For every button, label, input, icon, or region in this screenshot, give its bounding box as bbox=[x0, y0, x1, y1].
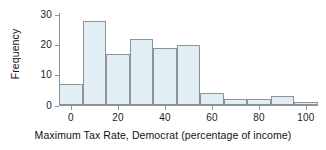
histogram-bar bbox=[247, 99, 271, 105]
x-axis-tick-label: 0 bbox=[51, 112, 91, 123]
y-axis-tick bbox=[55, 45, 59, 46]
x-axis-tick bbox=[259, 106, 260, 110]
x-axis-tick-label: 80 bbox=[239, 112, 279, 123]
plot-area: 0102030 020406080100 Frequency Maximum T… bbox=[0, 0, 326, 150]
y-axis-tick-label: 0 bbox=[12, 101, 52, 111]
x-axis-title: Maximum Tax Rate, Democrat (percentage o… bbox=[0, 129, 326, 141]
histogram-bar bbox=[153, 48, 177, 106]
y-axis-tick bbox=[55, 15, 59, 16]
histogram-bar bbox=[83, 21, 107, 106]
x-axis-tick-label: 20 bbox=[98, 112, 138, 123]
x-axis-tick bbox=[118, 106, 119, 110]
histogram-figure: 0102030 020406080100 Frequency Maximum T… bbox=[0, 0, 326, 150]
x-axis-tick-label: 40 bbox=[145, 112, 185, 123]
histogram-bar bbox=[106, 54, 130, 106]
x-axis-tick-label: 60 bbox=[192, 112, 232, 123]
x-axis-tick bbox=[71, 106, 72, 110]
histogram-bar bbox=[200, 93, 224, 105]
x-axis-tick bbox=[306, 106, 307, 110]
x-axis-tick bbox=[165, 106, 166, 110]
histogram-bar bbox=[59, 84, 83, 105]
histogram-bar bbox=[130, 39, 154, 106]
y-axis-title: Frequency bbox=[9, 9, 21, 99]
x-axis-tick-label: 100 bbox=[286, 112, 326, 123]
histogram-bar bbox=[177, 45, 201, 106]
y-axis-tick bbox=[55, 75, 59, 76]
y-axis-tick bbox=[55, 106, 59, 107]
histogram-bar bbox=[271, 96, 295, 105]
x-axis-tick bbox=[212, 106, 213, 110]
histogram-bar bbox=[224, 99, 248, 105]
